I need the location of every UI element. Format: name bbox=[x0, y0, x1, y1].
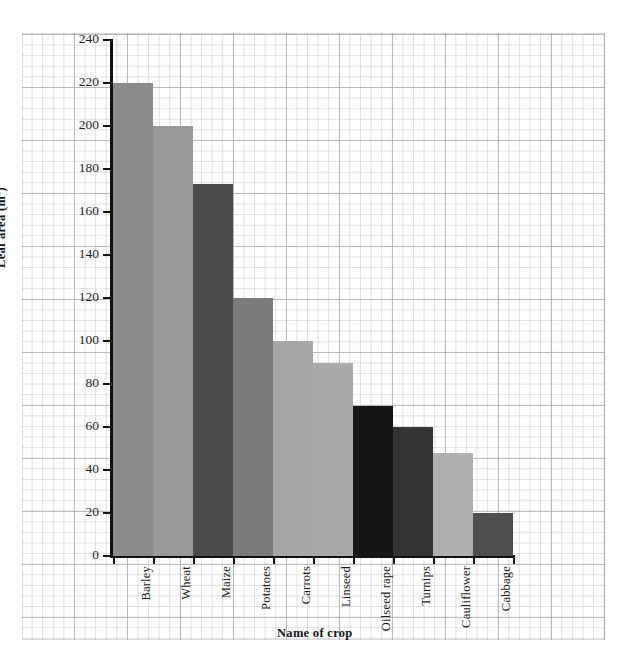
y-tick-label: 20 bbox=[0, 504, 99, 520]
y-tick-mark bbox=[103, 125, 112, 127]
y-axis-title-text: Leaf area (m bbox=[0, 196, 8, 268]
y-tick-label: 100 bbox=[0, 332, 99, 348]
y-tick-label: 80 bbox=[0, 375, 99, 391]
y-tick-mark bbox=[103, 297, 112, 299]
bar bbox=[113, 83, 153, 556]
bar bbox=[153, 126, 193, 556]
y-tick-label: 120 bbox=[0, 289, 99, 305]
y-tick-mark bbox=[103, 168, 112, 170]
bar bbox=[233, 298, 273, 556]
x-tick-label: Wheat bbox=[179, 566, 194, 600]
y-tick-mark bbox=[103, 254, 112, 256]
x-tick-label: Turnips bbox=[419, 566, 434, 606]
y-tick-label: 220 bbox=[0, 74, 99, 90]
x-tick-label: Linseed bbox=[339, 566, 354, 607]
x-tick-label: Carrots bbox=[299, 566, 314, 604]
y-tick-label: 180 bbox=[0, 160, 99, 176]
x-tick-label: Oilseed rape bbox=[379, 566, 394, 631]
y-tick-label: 60 bbox=[0, 418, 99, 434]
x-axis-title: Name of crop bbox=[277, 626, 353, 641]
bar bbox=[353, 406, 393, 557]
x-tick-label: Potatoes bbox=[259, 566, 274, 610]
x-tick-label: Cabbage bbox=[499, 566, 514, 611]
y-tick-label: 240 bbox=[0, 31, 99, 47]
y-tick-mark bbox=[103, 512, 112, 514]
y-tick-label: 40 bbox=[0, 461, 99, 477]
bar bbox=[393, 427, 433, 556]
y-tick-mark bbox=[103, 39, 112, 41]
bar bbox=[273, 341, 313, 556]
y-tick-label: 140 bbox=[0, 246, 99, 262]
x-tick-label: Maize bbox=[219, 566, 234, 598]
y-tick-label: 160 bbox=[0, 203, 99, 219]
y-tick-mark bbox=[103, 82, 112, 84]
x-tick-label: Cauliflower bbox=[459, 566, 474, 628]
bar-chart: 020406080100120140160180200220240 Barley… bbox=[0, 0, 626, 666]
bar bbox=[433, 453, 473, 556]
y-tick-label: 0 bbox=[0, 547, 99, 563]
y-tick-mark bbox=[103, 340, 112, 342]
bar bbox=[193, 184, 233, 556]
y-tick-mark bbox=[103, 383, 112, 385]
y-axis-title: Leaf area (m2) bbox=[0, 187, 9, 268]
y-axis-title-superscript: 2 bbox=[0, 192, 2, 196]
y-tick-mark bbox=[103, 211, 112, 213]
y-axis-title-close: ) bbox=[0, 187, 8, 191]
y-tick-mark bbox=[103, 555, 112, 557]
bar bbox=[313, 363, 353, 557]
x-tick-label: Barley bbox=[139, 566, 154, 601]
y-tick-mark bbox=[103, 426, 112, 428]
y-tick-label: 200 bbox=[0, 117, 99, 133]
y-tick-mark bbox=[103, 469, 112, 471]
bar bbox=[473, 513, 513, 556]
